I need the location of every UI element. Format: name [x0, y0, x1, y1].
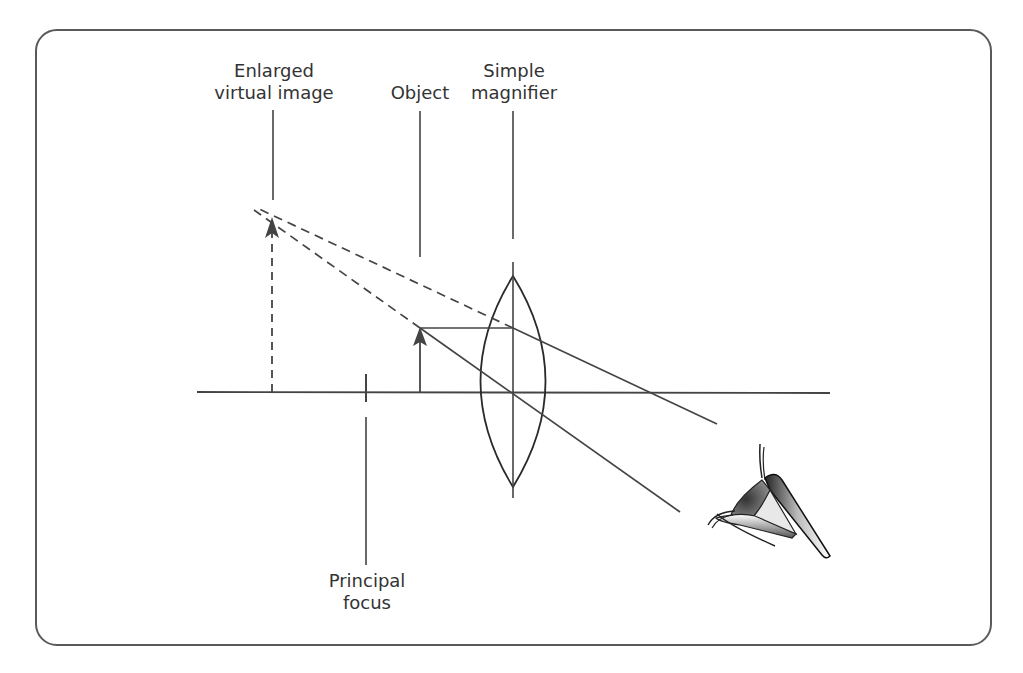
convex-lens	[481, 262, 546, 498]
virtual-rays	[254, 208, 513, 328]
label-virtual-image: Enlarged virtual image	[214, 60, 334, 104]
label-simple-magnifier: Simple magnifier	[466, 60, 562, 104]
central-ray	[420, 328, 680, 512]
label-object: Object	[385, 82, 455, 104]
object-arrow	[413, 327, 427, 392]
leader-lines	[273, 110, 513, 565]
real-rays	[420, 328, 717, 512]
virtual-image-arrow	[265, 217, 279, 392]
label-principal-focus: Principal focus	[320, 570, 414, 614]
eye-icon	[708, 444, 830, 558]
